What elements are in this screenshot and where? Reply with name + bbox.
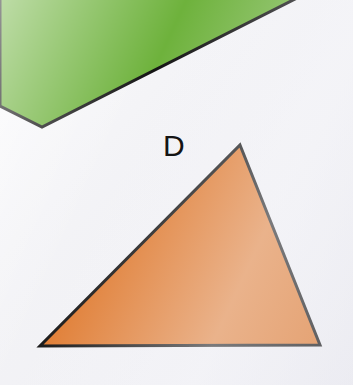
shape-canvas	[0, 0, 353, 385]
worksheet-scan-page: D	[0, 0, 353, 385]
shape-label-d: D	[163, 131, 185, 161]
